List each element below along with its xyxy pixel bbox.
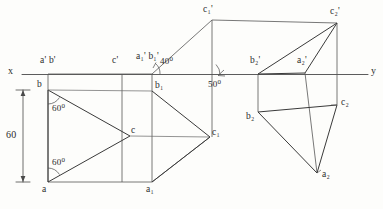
projector-b-to-b1 <box>48 90 152 91</box>
aux-lower-triangle-path <box>258 105 337 173</box>
point-label-c2-prime: c₂' <box>330 7 340 17</box>
dimension-label-60: 60 <box>6 130 16 140</box>
point-label-a1: a₁ <box>146 185 154 195</box>
dimension-arrow-bottom <box>21 176 26 182</box>
point-label-c1-prime: c₁' <box>203 5 213 15</box>
point-label-a-prime-b-prime: a' b' <box>40 56 56 66</box>
dimension-arrow-top <box>21 90 26 96</box>
projector-c-to-c1 <box>130 136 210 137</box>
auxiliary-view-upper-right <box>258 23 337 74</box>
tie-c1prime-to-c2prime <box>212 20 337 23</box>
drawing-sheet: x y 60 600 600 400 500 a' b' c' a₁' b₁' … <box>0 0 383 209</box>
angle-label-60-top: 600 <box>52 104 65 113</box>
point-label-a: a <box>42 185 46 195</box>
upper-tie-lines <box>212 20 337 173</box>
auxiliary-view-lower-right <box>258 105 337 173</box>
point-label-b: b <box>37 80 42 90</box>
point-label-b2-prime: b₂' <box>250 56 260 66</box>
point-label-a1-prime-b1-prime: a₁' b₁' <box>136 52 159 62</box>
top-view-middle-box <box>152 20 212 182</box>
point-label-a2-prime: a₂' <box>297 56 307 66</box>
point-label-b2: b₂ <box>246 112 254 122</box>
dimension-60 <box>16 90 30 182</box>
angle-label-50: 500 <box>208 80 221 89</box>
angle-label-40: 400 <box>160 57 173 66</box>
point-label-a2: a₂ <box>322 170 330 180</box>
axis-label-y: y <box>371 66 376 76</box>
point-label-c1: c₁ <box>212 128 220 138</box>
arrow-50-tick <box>218 70 225 76</box>
arc-60-bottom <box>48 168 60 175</box>
axis-label-x: x <box>8 66 13 76</box>
angle-arcs <box>48 63 225 175</box>
point-label-c: c <box>131 126 135 136</box>
vertical-a2prime-to-a2 <box>305 73 317 173</box>
point-label-b1: b₁ <box>155 81 163 91</box>
aux-upper-triangle-path <box>258 23 337 74</box>
front-view-projectors <box>48 90 210 137</box>
point-label-c-prime: c' <box>112 56 118 66</box>
arc-50 <box>216 65 220 75</box>
point-label-c2: c₂ <box>341 98 349 108</box>
angle-label-60-bottom: 600 <box>52 158 65 167</box>
arrow-40-tick <box>153 63 156 69</box>
